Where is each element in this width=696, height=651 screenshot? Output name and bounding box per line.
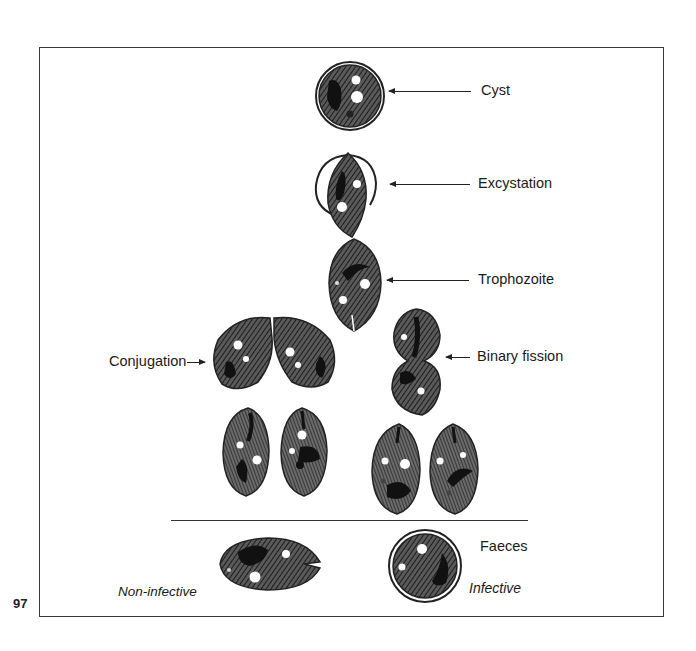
label-infective: Infective (469, 580, 521, 596)
conjugation-illustration (208, 312, 340, 392)
binary-fission-illustration (386, 307, 446, 417)
page-number: 97 (13, 596, 27, 611)
excystation-illustration (312, 149, 382, 239)
label-faeces: Faeces (480, 538, 528, 554)
conjugation-arrow (187, 362, 205, 363)
label-conjugation: Conjugation (109, 353, 186, 369)
label-excystation: Excystation (478, 175, 552, 191)
excystation-arrow (390, 184, 470, 185)
non-infective-trophozoite-illustration (216, 534, 324, 594)
label-non-infective: Non-infective (118, 584, 197, 599)
label-cyst: Cyst (481, 82, 510, 98)
infective-cyst-illustration (388, 529, 462, 603)
binary-fission-arrow (446, 357, 470, 358)
daughter-cell-2 (278, 405, 330, 499)
daughter-cell-3 (369, 421, 423, 517)
trophozoite-arrow (387, 280, 469, 281)
cyst-illustration (315, 61, 385, 131)
daughter-cell-1 (220, 405, 272, 499)
divider-line (171, 520, 528, 521)
cyst-arrow (389, 91, 471, 92)
label-trophozoite: Trophozoite (478, 271, 554, 287)
label-binary-fission: Binary fission (477, 348, 563, 364)
daughter-cell-4 (427, 421, 481, 517)
